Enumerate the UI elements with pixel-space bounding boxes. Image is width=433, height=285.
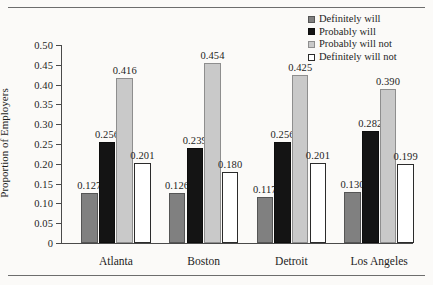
bar [187,148,204,243]
bar [81,193,98,243]
bar-group: 0.1170.2560.4250.201Detroit [238,45,326,243]
y-tick-mark [56,243,62,244]
x-category-label: Detroit [275,255,308,267]
y-tick-label: 0.20 [34,158,53,169]
y-tick-label: 0.25 [34,139,53,150]
bar-value-label: 0.454 [200,50,224,61]
bar [99,142,116,243]
bar-value-label: 0.127 [77,180,101,191]
bar [134,163,151,243]
bar [344,192,361,243]
bar [169,193,186,243]
legend-label: Probably will not [319,38,392,51]
y-tick-label: 0.45 [34,59,53,70]
bar-value-label: 0.282 [358,118,382,129]
bar [222,172,239,243]
bar [274,142,291,243]
legend-item: Definitely will [308,13,397,26]
bar [362,131,379,243]
top-rule [8,7,425,8]
x-axis-line [61,243,413,244]
legend-item: Probably will not [308,38,397,51]
y-tick-label: 0 [48,238,53,249]
legend-item: Probably will [308,26,397,39]
x-category-label: Atlanta [99,255,133,267]
bar-value-label: 0.117 [253,184,277,195]
bar [310,163,327,243]
y-tick-label: 0.35 [34,99,53,110]
y-axis-title: Proportion of Employers [0,88,10,197]
legend: Definitely willProbably willProbably wil… [308,13,397,63]
bottom-rule [8,275,425,276]
legend-swatch-icon [308,16,315,23]
legend-swatch-icon [308,28,315,35]
x-category-label: Boston [187,255,220,267]
plot-area: 00.050.100.150.200.250.300.350.400.450.5… [62,45,413,243]
bar-group: 0.1260.2390.4540.180Boston [150,45,238,243]
legend-swatch-icon [308,54,315,61]
bar [397,164,414,243]
bar-value-label: 0.239 [183,135,207,146]
figure: Proportion of Employers 00.050.100.150.2… [0,0,433,285]
y-tick-label: 0.15 [34,178,53,189]
bar [257,197,274,243]
x-category-label: Los Angeles [351,255,408,267]
bar-value-label: 0.256 [95,129,119,140]
y-tick-label: 0.50 [34,40,53,51]
y-tick-label: 0.10 [34,198,53,209]
y-tick-label: 0.40 [34,79,53,90]
bar-group: 0.1300.2820.3900.199Los Angeles [325,45,413,243]
bar-value-label: 0.416 [113,65,137,76]
bar-value-label: 0.130 [341,179,365,190]
bar-value-label: 0.256 [270,129,294,140]
bar [204,63,221,243]
bar-value-label: 0.126 [165,180,189,191]
bar-value-label: 0.199 [394,151,418,162]
legend-label: Definitely will not [319,51,397,64]
legend-item: Definitely will not [308,51,397,64]
legend-swatch-icon [308,41,315,48]
y-tick-label: 0.30 [34,119,53,130]
bar [380,89,397,243]
bar-group: 0.1270.2560.4160.201Atlanta [62,45,150,243]
legend-label: Probably will [319,26,376,39]
bar-value-label: 0.390 [376,76,400,87]
y-tick-label: 0.05 [34,218,53,229]
legend-label: Definitely will [319,13,381,26]
